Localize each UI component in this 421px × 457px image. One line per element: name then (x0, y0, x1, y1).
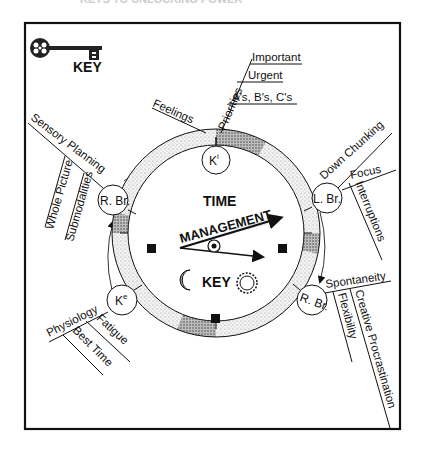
hour-marker-9 (147, 244, 156, 253)
label-important: Important (252, 51, 301, 63)
node-lbr-label: L. Br. (313, 192, 341, 206)
key-logo-label: KEY (73, 59, 102, 75)
label-abc: A's, B's, C's (232, 91, 293, 103)
header-fragment: KEYS TO UNLOCKING POWER (80, 0, 242, 5)
hour-marker-6 (211, 314, 220, 323)
arrow-lbr-to-rbr (320, 212, 325, 282)
label-creative-procrastination: Creative Procrastination (353, 288, 398, 409)
clock-title-key: KEY (202, 274, 231, 290)
node-rbr-left-label: R. Br. (100, 194, 130, 208)
time-management-key-diagram: KEYS TO UNLOCKING POWER KEY (0, 0, 421, 457)
label-focus: Focus (349, 163, 382, 181)
key-logo-icon (30, 38, 102, 60)
clock-title-time: TIME (203, 193, 236, 209)
label-urgent: Urgent (248, 69, 283, 81)
label-fatigue: Fatigue (95, 312, 131, 347)
hour-marker-3 (278, 244, 287, 253)
